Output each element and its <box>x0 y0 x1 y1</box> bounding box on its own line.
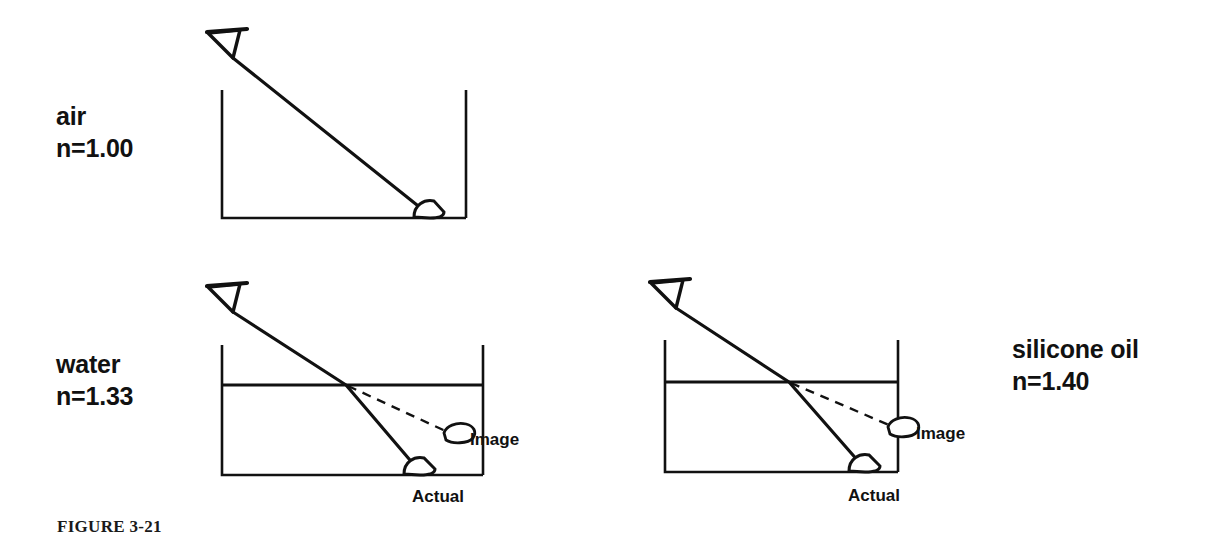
water-refracted-ray <box>233 312 421 473</box>
figure-3-21: air n=1.00 water n=1.33 silicone oil n=1… <box>0 0 1226 552</box>
air-medium-label: air n=1.00 <box>56 100 133 164</box>
oil-image-label: Image <box>916 424 965 443</box>
oil-refracted-ray <box>676 308 866 470</box>
eye-icon-oil <box>650 279 690 308</box>
object-oil <box>849 455 880 472</box>
oil-medium-name: silicone oil <box>1012 333 1139 365</box>
image-object-oil <box>888 417 919 436</box>
air-panel-graphics <box>207 29 466 218</box>
water-medium-name: water <box>56 348 133 380</box>
ray-diagram-canvas <box>0 0 1226 552</box>
oil-medium-label: silicone oil n=1.40 <box>1012 333 1139 397</box>
air-medium-name: air <box>56 100 133 132</box>
water-medium-label: water n=1.33 <box>56 348 133 412</box>
figure-caption: FIGURE 3-21 <box>57 517 162 537</box>
oil-virtual-ray <box>791 383 896 428</box>
water-virtual-ray <box>348 386 452 434</box>
water-panel-graphics <box>207 283 483 475</box>
eye-icon-air <box>207 29 247 58</box>
air-refractive-index: n=1.00 <box>56 132 133 164</box>
water-refractive-index: n=1.33 <box>56 380 133 412</box>
oil-panel-graphics <box>650 279 919 472</box>
air-container-outline <box>222 90 466 218</box>
oil-refractive-index: n=1.40 <box>1012 365 1139 397</box>
object-water <box>404 458 435 475</box>
air-sight-ray <box>233 58 432 217</box>
eye-icon-water <box>207 283 247 312</box>
water-actual-label: Actual <box>412 487 464 506</box>
oil-actual-label: Actual <box>848 486 900 505</box>
water-image-label: Image <box>470 430 519 449</box>
object-air <box>414 201 444 218</box>
water-container-outline <box>222 345 483 475</box>
oil-container-outline <box>665 340 898 472</box>
